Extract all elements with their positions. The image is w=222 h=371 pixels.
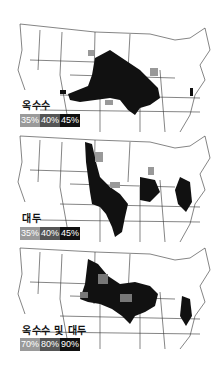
legend-item-low: 35% xyxy=(20,227,40,240)
panel-title-corn: 옥수수 xyxy=(22,97,51,112)
legend-item-low: 70% xyxy=(20,338,40,351)
legend-item-mid: 40% xyxy=(40,227,60,240)
legend-item-low: 35% xyxy=(20,114,40,127)
legend-item-mid: 80% xyxy=(40,338,60,351)
legend-item-mid: 40% xyxy=(40,114,60,127)
panel-title-corn-and-soybean: 옥수수 및 대두 xyxy=(22,322,87,337)
legend-soybean: 35% 40% 45% xyxy=(20,227,80,240)
map-panel-corn: 옥수수 35% 40% 45% xyxy=(0,20,222,132)
legend-item-high: 45% xyxy=(60,227,80,240)
legend-item-high: 45% xyxy=(60,114,80,127)
map-panel-corn-and-soybean: 옥수수 및 대두 70% 80% 90% xyxy=(0,244,222,359)
map-panel-soybean: 대두 35% 40% 45% xyxy=(0,132,222,244)
panel-title-soybean: 대두 xyxy=(22,210,41,225)
legend-corn-and-soybean: 70% 80% 90% xyxy=(20,338,80,351)
legend-item-high: 90% xyxy=(60,338,80,351)
legend-corn: 35% 40% 45% xyxy=(20,114,80,127)
